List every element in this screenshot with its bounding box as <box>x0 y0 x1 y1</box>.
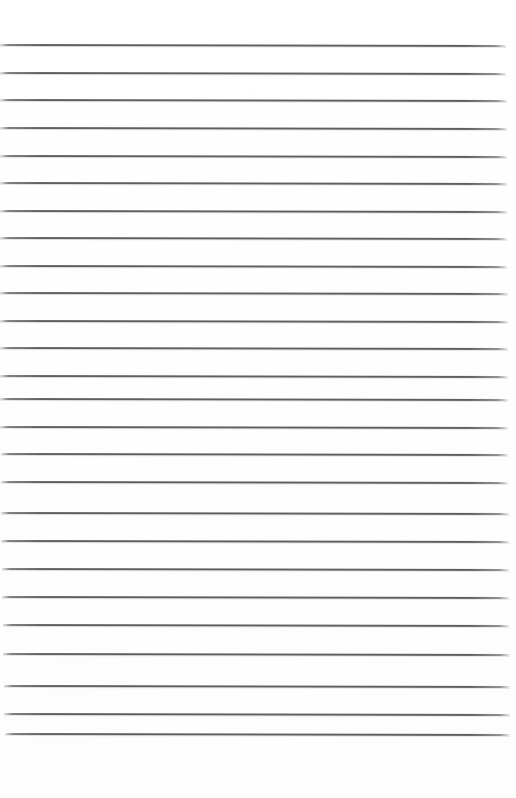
rule-line <box>1 512 509 515</box>
rule-line <box>0 292 508 295</box>
rule-line <box>0 99 507 102</box>
rule-line <box>3 624 509 627</box>
rule-line <box>0 320 508 323</box>
rule-line <box>2 568 509 571</box>
rule-line <box>0 210 507 213</box>
rule-line <box>1 540 509 543</box>
rule-line <box>0 72 506 75</box>
rule-line <box>0 265 507 268</box>
bottom-margin-blank-area <box>0 736 516 798</box>
rule-line <box>2 596 509 599</box>
rule-line <box>0 155 507 158</box>
rule-line <box>0 237 507 240</box>
rule-line <box>4 713 510 716</box>
rule-line <box>0 127 507 130</box>
ruled-lines-group <box>0 0 516 798</box>
lined-paper-page <box>0 0 516 798</box>
rule-line <box>0 375 508 378</box>
rule-line <box>0 426 508 429</box>
rule-line <box>3 653 510 656</box>
rule-line <box>4 685 510 688</box>
rule-line <box>1 453 508 456</box>
rule-line <box>0 347 508 350</box>
rule-line <box>0 44 506 47</box>
rule-line <box>0 398 508 401</box>
rule-line <box>0 182 507 185</box>
rule-line <box>1 481 508 484</box>
